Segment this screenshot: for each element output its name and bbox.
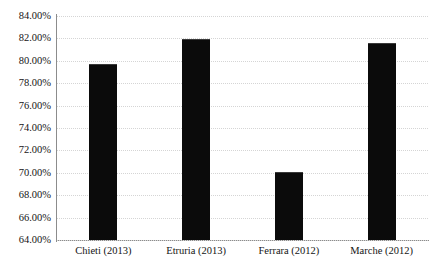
x-axis-tick-label: Marche (2012) [322, 245, 442, 257]
bar-chart: 84.00%82.00%80.00%78.00%76.00%74.00%72.0… [0, 0, 442, 268]
x-axis-tick-labels: Chieti (2013)Etruria (2013)Ferrara (2012… [0, 0, 442, 268]
